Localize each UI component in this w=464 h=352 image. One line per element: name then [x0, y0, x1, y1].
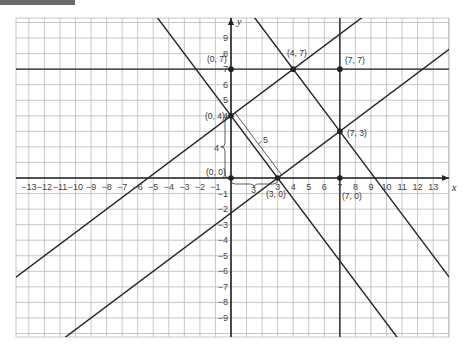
y-tick-label: 5: [223, 95, 228, 105]
x-tick-label: −8: [101, 182, 111, 192]
x-tick-label: −5: [148, 182, 158, 192]
x-tick-label: −10: [68, 182, 83, 192]
y-tick-label: 7: [223, 64, 228, 74]
point-marker: [337, 129, 343, 135]
x-axis-arrow-icon: [442, 175, 449, 181]
x-tick-label: −12: [37, 182, 52, 192]
point-marker: [228, 175, 234, 181]
y-tick-label: −9: [218, 313, 228, 323]
y-tick-label: −8: [218, 297, 228, 307]
point-label-4-7: (4, 7): [287, 48, 307, 58]
brace-label-3: 3: [251, 185, 256, 195]
x-tick-label: −3: [179, 182, 189, 192]
line-through-4-7-and-7-3: [0, 0, 464, 297]
x-tick-label: 4: [291, 182, 296, 192]
coordinate-plane: −13−12−11−10−9−8−7−6−5−4−3−2−13456789101…: [0, 0, 464, 352]
x-axis-label: x: [451, 182, 457, 193]
point-marker: [228, 113, 234, 119]
y-tick-label: −2: [218, 204, 228, 214]
y-tick-label: 6: [223, 80, 228, 90]
y-tick-label: −4: [218, 235, 228, 245]
point-marker: [337, 175, 343, 181]
point-marker: [275, 175, 281, 181]
point-marker: [228, 66, 234, 72]
point-label-7-3: (7, 3): [347, 128, 367, 138]
y-axis-label: y: [236, 16, 242, 27]
x-tick-label: −11: [53, 182, 68, 192]
y-tick-label: 9: [223, 33, 228, 43]
y-tick-label: −6: [218, 266, 228, 276]
y-tick-label: −5: [218, 251, 228, 261]
point-label-7-0: (7, 0): [342, 191, 362, 201]
point-label-0-4: (0, 4): [205, 111, 225, 121]
brace-diagonal: [231, 113, 282, 178]
y-tick-label: −7: [218, 282, 228, 292]
points: [228, 66, 342, 180]
point-label-0-7: (0, 7): [207, 54, 227, 64]
line-through-3-0-and-7-3: [0, 38, 464, 352]
line-through-0-4-and-4-7: [0, 0, 464, 291]
x-tick-label: −2: [195, 182, 205, 192]
x-tick-label: −9: [86, 182, 96, 192]
y-tick-label: −1: [218, 189, 228, 199]
point-marker: [290, 66, 296, 72]
point-label-0-0: (0, 0): [206, 167, 226, 177]
brace-label-4: 4: [214, 143, 219, 153]
x-tick-label: 12: [413, 182, 423, 192]
x-tick-label: 6: [322, 182, 327, 192]
y-tick-label: −3: [218, 220, 228, 230]
x-tick-label: 9: [368, 182, 373, 192]
x-tick-label: 10: [381, 182, 391, 192]
x-tick-label: 5: [306, 182, 311, 192]
x-tick-label: 13: [428, 182, 438, 192]
x-tick-label: −13: [21, 182, 36, 192]
point-marker: [337, 66, 343, 72]
x-tick-label: −4: [164, 182, 174, 192]
brace-label-5: 5: [263, 135, 268, 145]
y-axis-arrow-icon: [228, 18, 234, 25]
x-tick-label: −7: [117, 182, 127, 192]
point-label-7-7: (7, 7): [345, 55, 365, 65]
x-tick-label: 11: [397, 182, 406, 192]
point-label-3-0: (3, 0): [266, 189, 286, 199]
x-tick-label: −6: [133, 182, 143, 192]
